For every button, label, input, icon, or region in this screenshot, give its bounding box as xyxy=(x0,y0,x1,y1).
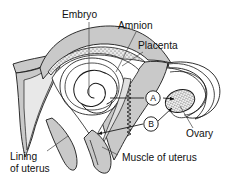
diagram-canvas: A B Embryo Amnion Placenta Ovary Lining … xyxy=(0,0,236,187)
label-ovary: Ovary xyxy=(186,128,214,139)
label-lining-line2: of uterus xyxy=(10,163,50,174)
left-cervix-process xyxy=(46,118,77,170)
label-lining-line1: Lining xyxy=(10,151,38,162)
arrow-B-tail xyxy=(158,108,172,121)
label-embryo: Embryo xyxy=(62,9,97,20)
marker-B-label: B xyxy=(148,119,154,129)
uterus-diagram: A B Embryo Amnion Placenta Ovary Lining … xyxy=(0,0,236,187)
marker-A[interactable]: A xyxy=(146,91,160,105)
label-amnion: Amnion xyxy=(118,20,153,31)
marker-A-label: A xyxy=(150,93,156,103)
label-muscle-of-uterus: Muscle of uterus xyxy=(122,152,197,163)
marker-B[interactable]: B xyxy=(144,117,158,131)
label-placenta: Placenta xyxy=(138,40,178,51)
